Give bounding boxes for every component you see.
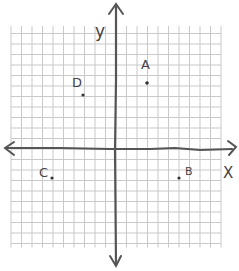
point-c-label: C (39, 165, 48, 180)
y-axis (115, 6, 116, 264)
point-b-label: B (185, 165, 193, 178)
point-d-dot (81, 93, 84, 96)
point-a-dot (145, 81, 149, 85)
point-b: B (177, 165, 192, 180)
coordinate-plane: y X A B C D (0, 0, 239, 271)
point-b-dot (177, 176, 180, 179)
point-a: A (141, 57, 150, 85)
point-a-label: A (141, 57, 150, 72)
y-axis-label: y (95, 21, 105, 41)
point-c: C (39, 165, 54, 180)
x-axis (6, 148, 232, 150)
x-axis-label: X (223, 164, 233, 182)
axes (5, 4, 236, 266)
point-d-label: D (72, 75, 82, 90)
point-c-dot (50, 176, 53, 179)
